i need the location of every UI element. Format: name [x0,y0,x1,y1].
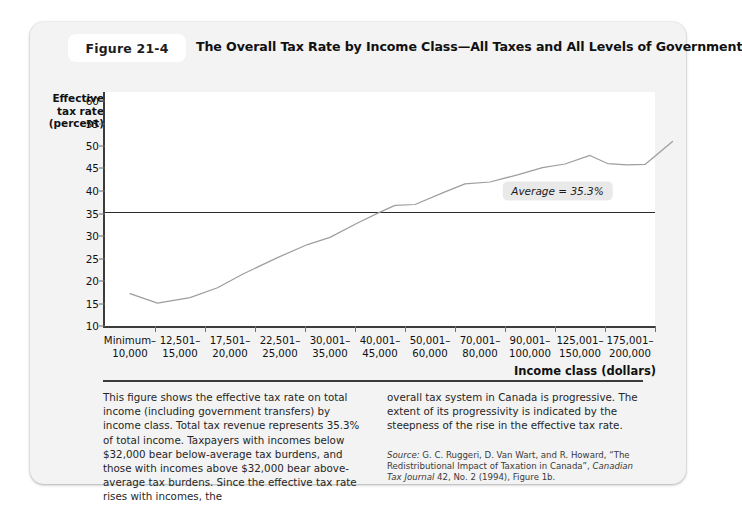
x-tick-label-7-line-0: 70,001– [460,335,501,348]
figure-card: Figure 21-4 The Overall Tax Rate by Inco… [30,22,686,484]
data-line-series [105,92,655,326]
y-tick-label-10: 10 [86,320,99,332]
x-tick-mark-2 [205,326,206,332]
x-tick-label-2-line-0: 17,501– [210,335,251,348]
x-tick-label-2-line-1: 20,000 [210,348,251,361]
x-tick-label-5: 40,001–45,000 [360,335,401,360]
x-tick-label-9-line-0: 125,001– [556,335,603,348]
source-prefix: Source: [387,450,420,460]
y-tick-label-20: 20 [86,275,99,287]
x-tick-label-0-line-1: 10,000 [104,348,156,361]
y-tick-label-50: 50 [86,140,99,152]
plot-area: 1015202530354045505560 Minimum–10,00012,… [103,92,655,328]
x-tick-mark-11 [655,326,656,332]
x-tick-label-9: 125,001–150,000 [556,335,603,360]
x-tick-label-6-line-0: 50,001– [410,335,451,348]
x-tick-mark-7 [455,326,456,332]
caption-text-right: overall tax system in Canada is progress… [387,390,645,433]
x-tick-mark-6 [405,326,406,332]
x-tick-label-1: 12,501–15,000 [160,335,201,360]
y-tick-label-55: 55 [86,118,99,130]
x-tick-label-5-line-1: 45,000 [360,348,401,361]
x-tick-mark-4 [305,326,306,332]
y-tick-label-35: 35 [86,208,99,220]
source-note: Source: G. C. Ruggeri, D. Van Wart, and … [387,450,645,484]
x-tick-mark-9 [555,326,556,332]
x-tick-label-2: 17,501–20,000 [210,335,251,360]
caption-block: This figure shows the effective tax rate… [103,390,648,504]
x-tick-label-3-line-0: 22,501– [260,335,301,348]
x-tick-label-8-line-0: 90,001– [509,335,551,348]
source-citation-suffix: 42, No. 2 (1994), Figure 1b. [434,472,555,482]
figure-title: The Overall Tax Rate by Income Class—All… [196,39,742,54]
x-tick-label-6-line-1: 60,000 [410,348,451,361]
caption-column-left: This figure shows the effective tax rate… [103,390,361,504]
caption-column-right: overall tax system in Canada is progress… [387,390,645,504]
x-tick-label-6: 50,001–60,000 [410,335,451,360]
x-tick-label-3: 22,501–25,000 [260,335,301,360]
y-tick-label-25: 25 [86,253,99,265]
x-tick-label-3-line-1: 25,000 [260,348,301,361]
caption-text-left: This figure shows the effective tax rate… [103,390,361,504]
x-tick-label-5-line-0: 40,001– [360,335,401,348]
caption-divider [103,380,643,382]
x-tick-label-8-line-1: 100,000 [509,348,551,361]
figure-number-badge: Figure 21-4 [68,34,186,62]
average-annotation-label: Average = 35.3% [502,182,613,201]
y-tick-label-45: 45 [86,162,99,174]
figure-number-label: Figure 21-4 [85,41,168,56]
x-tick-label-9-line-1: 150,000 [556,348,603,361]
x-tick-label-7-line-1: 80,000 [460,348,501,361]
x-tick-label-0: Minimum–10,000 [104,335,156,360]
chart-container: Effectivetax rate(percent) 1015202530354… [30,68,686,358]
x-tick-label-8: 90,001–100,000 [509,335,551,360]
y-tick-label-15: 15 [86,298,99,310]
x-tick-mark-1 [155,326,156,332]
plot-inner: 1015202530354045505560 Minimum–10,00012,… [105,92,655,326]
x-tick-label-4: 30,001–35,000 [310,335,351,360]
y-tick-label-30: 30 [86,230,99,242]
x-tick-label-4-line-1: 35,000 [310,348,351,361]
x-tick-mark-8 [505,326,506,332]
x-tick-mark-5 [355,326,356,332]
x-tick-label-0-line-0: Minimum– [104,335,156,348]
x-axis-title: Income class (dollars) [514,364,656,378]
y-tick-label-40: 40 [86,185,99,197]
x-tick-label-4-line-0: 30,001– [310,335,351,348]
x-tick-label-1-line-1: 15,000 [160,348,201,361]
x-tick-mark-3 [255,326,256,332]
effective-tax-rate-line [130,142,673,304]
x-tick-label-10-line-1: 200,000 [606,348,653,361]
x-tick-label-1-line-0: 12,501– [160,335,201,348]
figure-header: Figure 21-4 The Overall Tax Rate by Inco… [30,34,686,64]
x-tick-label-10-line-0: 175,001– [606,335,653,348]
x-tick-label-7: 70,001–80,000 [460,335,501,360]
x-tick-label-10: 175,001–200,000 [606,335,653,360]
y-tick-label-60: 60 [86,95,99,107]
x-tick-mark-10 [605,326,606,332]
